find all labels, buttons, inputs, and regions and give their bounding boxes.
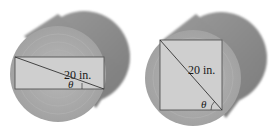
angle-label: θ — [68, 78, 74, 90]
angle-label: θ — [201, 98, 207, 110]
left-log: 20 in. θ — [10, 11, 130, 122]
figure: 20 in. θ 20 in. θ — [0, 0, 274, 129]
right-log: 20 in. θ — [145, 12, 267, 126]
diagonal-label: 20 in. — [188, 63, 215, 77]
